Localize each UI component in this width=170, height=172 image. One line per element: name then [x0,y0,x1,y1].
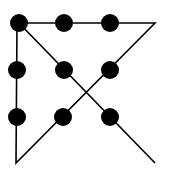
dot-9 [101,108,119,126]
dot-7 [8,108,26,126]
dot-4 [8,61,26,79]
solution-path [16,23,155,163]
dot-2 [55,14,73,32]
dot-6 [101,61,119,79]
dot-1 [10,14,28,32]
nine-dots-diagram [0,0,170,172]
dot-5 [55,61,73,79]
dot-3 [101,14,119,32]
dot-8 [54,108,72,126]
